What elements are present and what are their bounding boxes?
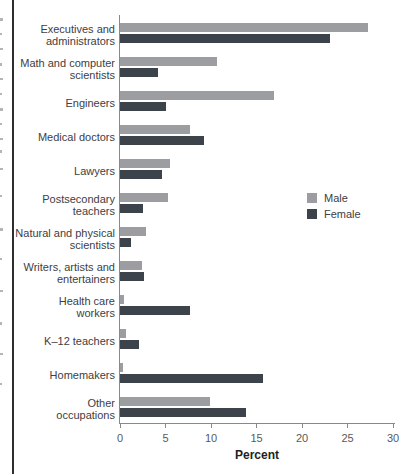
legend-swatch-male	[307, 193, 317, 203]
x-tick-mark	[120, 424, 121, 428]
category-label: Writers, artists and entertainers	[8, 261, 115, 286]
x-tick-label: 0	[105, 432, 135, 444]
category-label: Math and computer scientists	[8, 57, 115, 82]
page-edge-mark	[0, 48, 3, 50]
bar-male	[120, 23, 368, 32]
bar-female	[120, 238, 131, 247]
bar-male	[120, 125, 190, 134]
bar-male	[120, 397, 210, 406]
page-edge-mark	[0, 18, 3, 21]
page-edge-mark	[0, 168, 3, 170]
category-label: Natural and physical scientists	[8, 227, 115, 252]
category-label: Medical doctors	[8, 131, 115, 144]
page-edge-mark	[0, 33, 2, 35]
bar-male	[120, 295, 124, 304]
legend-label: Female	[324, 208, 361, 220]
x-tick-label: 20	[287, 432, 317, 444]
legend-item-female: Female	[307, 208, 361, 219]
x-tick-label: 15	[242, 432, 272, 444]
page-edge-mark	[0, 258, 2, 260]
bar-female	[120, 272, 144, 281]
page-edge-mark	[0, 290, 3, 292]
x-tick-mark	[211, 424, 212, 428]
bar-female	[120, 306, 190, 315]
x-axis-title: Percent	[120, 448, 394, 462]
x-axis-line	[119, 423, 395, 424]
page-edge-mark	[0, 93, 2, 95]
page-edge-mark	[0, 123, 2, 125]
bar-male	[120, 159, 170, 168]
x-tick-mark	[393, 424, 394, 428]
page-edge-mark	[0, 353, 3, 355]
x-tick-mark	[165, 424, 166, 428]
bar-female	[120, 408, 246, 417]
legend-item-male: Male	[307, 192, 361, 203]
page-edge-mark	[0, 150, 2, 153]
bar-female	[120, 170, 162, 179]
category-label: Executives and administrators	[8, 23, 115, 48]
bar-female	[120, 204, 143, 213]
page-edge-mark	[0, 63, 2, 66]
category-label: Postsecondary teachers	[8, 193, 115, 218]
page-edge-mark	[0, 195, 2, 197]
bar-male	[120, 193, 168, 202]
bar-male	[120, 91, 274, 100]
bar-female	[120, 68, 158, 77]
bar-male	[120, 329, 126, 338]
bar-female	[120, 136, 204, 145]
page-edge-mark	[0, 138, 3, 140]
bar-female	[120, 102, 166, 111]
category-label: Lawyers	[8, 165, 115, 178]
legend: MaleFemale	[307, 192, 361, 224]
category-label: Engineers	[8, 97, 115, 110]
bar-male	[120, 261, 142, 270]
x-tick-label: 5	[151, 432, 181, 444]
bar-male	[120, 57, 217, 66]
category-label: Other occupations	[8, 397, 115, 422]
bar-female	[120, 34, 330, 43]
page-edge-mark	[0, 383, 2, 385]
page-edge-mark	[0, 228, 3, 231]
page-edge-mark	[0, 78, 3, 80]
x-tick-label: 30	[378, 432, 408, 444]
gender-occupation-bar-chart-figure: Executives and administratorsMath and co…	[0, 0, 416, 474]
category-label: Homemakers	[8, 369, 115, 382]
page-edge-mark	[0, 322, 2, 325]
bar-male	[120, 363, 123, 372]
bar-female	[120, 340, 139, 349]
bar-male	[120, 227, 146, 236]
x-tick-mark	[347, 424, 348, 428]
category-label: Health care workers	[8, 295, 115, 320]
category-label: K–12 teachers	[8, 335, 115, 348]
legend-label: Male	[324, 192, 348, 204]
bar-female	[120, 374, 263, 383]
x-tick-label: 25	[333, 432, 363, 444]
x-tick-mark	[256, 424, 257, 428]
x-tick-mark	[302, 424, 303, 428]
page-edge-mark	[0, 108, 3, 111]
x-tick-label: 10	[196, 432, 226, 444]
legend-swatch-female	[307, 209, 317, 219]
